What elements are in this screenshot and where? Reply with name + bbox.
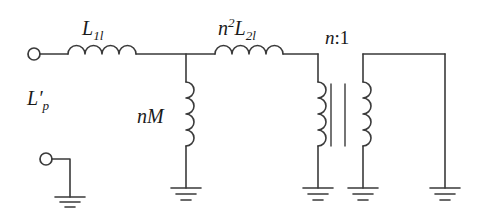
ground-primary-icon (303, 188, 333, 200)
ground-input-icon (55, 197, 85, 207)
label-lp-base: L (27, 87, 38, 109)
inductor-l1l (68, 46, 136, 55)
wire-terminal-bottom-to-corner (52, 159, 70, 197)
label-port: L′p (27, 88, 49, 112)
label-series-inductor-1: L1l (82, 18, 103, 42)
label-n2l2l-exponent: 2 (228, 15, 235, 30)
inductor-n2l2l (215, 46, 283, 55)
inductor-nm (186, 82, 194, 146)
label-ratio-one: 1 (340, 27, 350, 48)
input-terminal-top-icon (28, 48, 40, 60)
label-n2l2l-subscript: 2l (246, 28, 256, 43)
label-lp-subscript: p (43, 98, 50, 113)
transformer-secondary-coil (363, 82, 371, 146)
label-ratio-n: n (325, 27, 335, 48)
label-shunt-inductor: nM (137, 106, 164, 126)
label-series-inductor-2: n2L2l (218, 16, 256, 42)
input-terminal-bottom-icon (40, 153, 52, 165)
label-l1l-subscript: 1l (93, 28, 103, 43)
label-n2l2l-base: L (235, 17, 246, 39)
label-l1l-base: L (82, 17, 93, 39)
ground-secondary-icon (348, 188, 378, 200)
ground-output-icon (430, 188, 460, 200)
ground-nm-icon (171, 188, 201, 200)
label-n2l2l-prefix: n (218, 17, 228, 39)
label-transformer-ratio: n:1 (325, 28, 349, 47)
circuit-diagram-figure: L1l n2L2l n:1 nM L′p (0, 0, 481, 219)
transformer-primary-coil (318, 82, 326, 146)
